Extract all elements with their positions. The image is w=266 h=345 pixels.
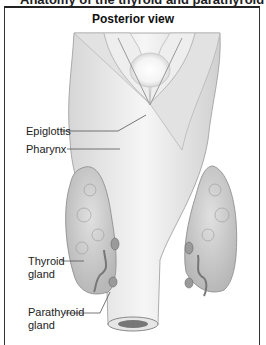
label-pharynx: Pharynx	[26, 143, 66, 155]
label-thyroid-line1: Thyroid	[28, 255, 65, 267]
label-parathyroid-line2: gland	[28, 319, 55, 331]
label-epiglottis: Epiglottis	[26, 125, 71, 137]
label-parathyroid-line1: Parathyroid	[28, 306, 84, 318]
anatomy-illustration	[0, 0, 266, 345]
label-thyroid-line2: gland	[28, 268, 55, 280]
